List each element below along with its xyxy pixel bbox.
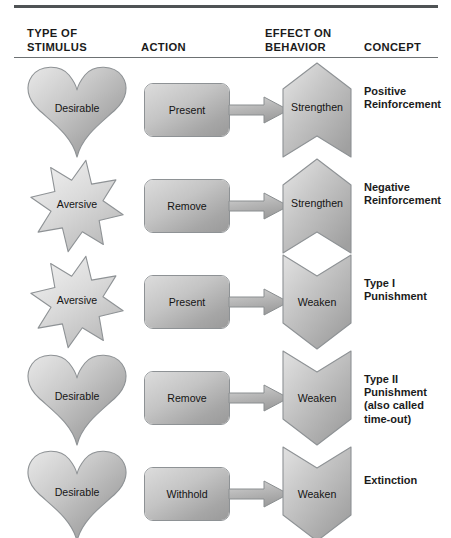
chevron-down-shape [281,252,353,352]
heart-shape [22,62,132,158]
column-header-stimulus: TYPE OF STIMULUS [27,27,87,54]
action-box: Remove [144,179,230,233]
stimulus-cell: Desirable [22,350,132,446]
concept-label: Positive Reinforcement [364,85,448,111]
concept-label: Type II Punishment (also called time-out… [364,373,448,426]
effect-cell: Strengthen [281,60,353,160]
stimulus-cell: Desirable [22,62,132,158]
effect-cell: Weaken [281,348,353,448]
action-box: Withhold [144,467,230,521]
concept-label: Type I Punishment [364,277,448,303]
diagram-row: DesirableWithholdWeaken [0,446,451,538]
action-box: Present [144,275,230,329]
stimulus-cell: Desirable [22,446,132,538]
effect-cell: Strengthen [281,156,353,256]
chevron-down-shape [281,348,353,448]
operant-conditioning-diagram: TYPE OF STIMULUS ACTION EFFECT ON BEHAVI… [0,0,451,538]
heart-shape [22,446,132,538]
stimulus-cell: Aversive [22,254,132,350]
stimulus-cell: Aversive [22,158,132,254]
header-rule [14,57,438,58]
concept-label: Extinction [364,474,448,487]
heart-shape [22,350,132,446]
concept-label: Negative Reinforcement [364,181,448,207]
star-shape [22,158,132,254]
chevron-down-shape [281,444,353,538]
action-box: Remove [144,371,230,425]
effect-cell: Weaken [281,252,353,352]
action-label: Remove [145,180,229,232]
star-shape [22,254,132,350]
column-header-concept: CONCEPT [364,41,421,55]
chevron-up-shape [281,156,353,256]
top-rule [14,5,438,8]
action-label: Present [145,84,229,136]
action-label: Remove [145,372,229,424]
effect-cell: Weaken [281,444,353,538]
column-header-action: ACTION [141,41,186,55]
action-label: Present [145,276,229,328]
action-box: Present [144,83,230,137]
chevron-up-shape [281,60,353,160]
action-label: Withhold [145,468,229,520]
column-header-effect: EFFECT ON BEHAVIOR [265,27,332,54]
